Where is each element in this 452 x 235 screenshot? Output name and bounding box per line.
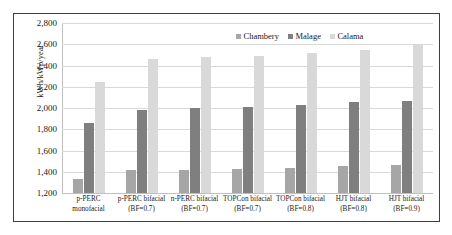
bar-malage — [84, 123, 94, 193]
x-axis-label: p-PERC bifacial(BF=0.7) — [115, 195, 168, 214]
bar-group — [168, 23, 221, 193]
bar-calama — [95, 82, 105, 193]
x-axis-label: HJT bifacial(BF=0.8) — [327, 195, 380, 214]
legend-item-malage[interactable]: Malage — [288, 31, 321, 41]
bar-group — [327, 23, 380, 193]
legend-label: Malage — [295, 31, 321, 41]
bar-malage — [190, 108, 200, 193]
x-axis-label: TOPCon bifacial(BF=0.7) — [221, 195, 274, 214]
x-axis-label: p-PERCmonofacial — [62, 195, 115, 214]
bar-calama — [360, 50, 370, 193]
y-tick-label: 2,000 — [37, 103, 57, 113]
y-tick-label: 1,800 — [37, 124, 57, 134]
bar-calama — [307, 53, 317, 193]
bar-calama — [148, 59, 158, 193]
y-tick-label: 2,800 — [37, 18, 57, 28]
legend-item-chambery[interactable]: Chambery — [236, 31, 279, 41]
x-axis-label: TOPCon bifacial(BF=0.8) — [274, 195, 327, 214]
bar-malage — [243, 107, 253, 193]
bar-chambery — [179, 170, 189, 193]
bar-malage — [137, 110, 147, 193]
bar-group — [115, 23, 168, 193]
y-tick-label: 1,600 — [37, 146, 57, 156]
legend-swatch-icon — [288, 34, 293, 39]
y-tick-label: 1,200 — [37, 188, 57, 198]
bar-chambery — [126, 170, 136, 193]
bar-malage — [349, 102, 359, 193]
chart-frame: kWh/kWp/year 2,8002,6002,4002,2002,0001,… — [13, 13, 440, 222]
bar-calama — [201, 57, 211, 193]
x-axis-labels: p-PERCmonofacialp-PERC bifacial(BF=0.7)n… — [62, 195, 433, 214]
bar-chambery — [285, 168, 295, 194]
bar-calama — [254, 56, 264, 193]
bar-chambery — [391, 165, 401, 193]
gridline: 1,200 — [62, 193, 433, 194]
bar-calama — [413, 45, 423, 193]
plot-area: 2,8002,6002,4002,2002,0001,8001,6001,400… — [62, 23, 433, 193]
y-tick-label: 2,600 — [37, 39, 57, 49]
bar-groups — [62, 23, 433, 193]
bar-chambery — [232, 169, 242, 193]
bar-chambery — [338, 166, 348, 193]
bar-group — [380, 23, 433, 193]
y-tick-label: 2,200 — [37, 82, 57, 92]
x-axis-label: HJT bifacial(BF=0.9) — [380, 195, 433, 214]
legend-label: Chambery — [244, 31, 279, 41]
bar-group — [221, 23, 274, 193]
bar-chambery — [73, 179, 83, 193]
legend-swatch-icon — [236, 34, 241, 39]
bar-group — [62, 23, 115, 193]
legend-swatch-icon — [330, 34, 335, 39]
bar-group — [274, 23, 327, 193]
y-tick-label: 1,400 — [37, 167, 57, 177]
bar-chart-figure: kWh/kWp/year 2,8002,6002,4002,2002,0001,… — [0, 0, 452, 235]
bar-malage — [296, 105, 306, 193]
chart-legend: ChamberyMalageCalama — [236, 31, 363, 41]
y-tick-label: 2,400 — [37, 61, 57, 71]
legend-label: Calama — [337, 31, 363, 41]
legend-item-calama[interactable]: Calama — [330, 31, 363, 41]
x-axis-label: n-PERC bifacial(BF=0.7) — [168, 195, 221, 214]
bar-malage — [402, 101, 412, 193]
